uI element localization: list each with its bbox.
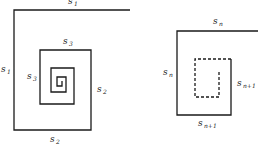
- svg-text:s: s: [237, 78, 242, 88]
- svg-text:2: 2: [55, 138, 60, 145]
- svg-text:1: 1: [7, 68, 11, 75]
- svg-text:s: s: [163, 67, 168, 77]
- spiral-diagram: s 1 s 1 s 2 s 2 s 3 s 3 s n s n s n+1 s …: [0, 0, 262, 148]
- svg-text:n: n: [219, 20, 223, 27]
- svg-text:n: n: [169, 71, 173, 78]
- svg-text:s: s: [213, 16, 218, 26]
- svg-text:3: 3: [69, 40, 73, 47]
- svg-text:s: s: [63, 36, 68, 46]
- svg-text:3: 3: [33, 75, 37, 82]
- label-right-left: s n: [163, 67, 173, 78]
- svg-text:n+1: n+1: [243, 82, 256, 89]
- svg-text:1: 1: [74, 0, 78, 7]
- label-left-right: s 2: [97, 84, 107, 95]
- label-left-left: s 1: [1, 64, 11, 75]
- label-right-top: s n: [213, 16, 223, 27]
- right-solid-path: [177, 31, 258, 115]
- label-left-bottom: s 2: [50, 134, 60, 145]
- svg-text:2: 2: [102, 88, 107, 95]
- label-left-inner-top: s 3: [63, 36, 73, 47]
- label-left-inner-left: s 3: [27, 71, 37, 82]
- left-spiral-path: [14, 10, 130, 130]
- svg-text:s: s: [198, 118, 203, 128]
- label-right-right: s n+1: [237, 78, 256, 89]
- label-right-bottom: s n+1: [198, 118, 217, 129]
- svg-text:n+1: n+1: [204, 122, 217, 129]
- svg-text:s: s: [68, 0, 73, 6]
- right-dashed-path: [195, 59, 231, 97]
- svg-text:s: s: [27, 71, 32, 81]
- svg-text:s: s: [1, 64, 6, 74]
- label-left-top: s 1: [68, 0, 78, 7]
- svg-text:s: s: [50, 134, 55, 144]
- svg-text:s: s: [97, 84, 102, 94]
